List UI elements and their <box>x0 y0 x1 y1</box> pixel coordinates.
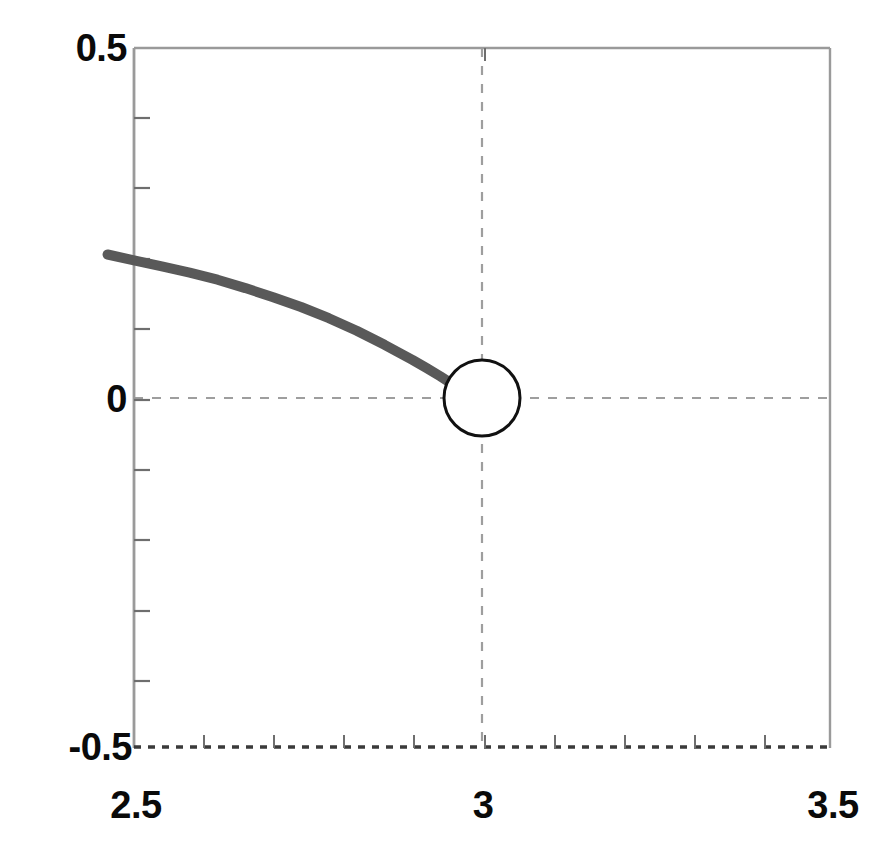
y-axis-label-bottom: -0.5 <box>69 728 132 766</box>
y-axis-label-top: 0.5 <box>76 29 127 67</box>
x-axis-label-left: 2.5 <box>110 786 161 824</box>
x-axis-label-mid: 3 <box>473 786 494 824</box>
y-axis-label-mid: 0 <box>106 380 127 418</box>
x-axis-label-right: 3.5 <box>807 786 858 824</box>
open-circle-marker <box>444 360 520 436</box>
plot-canvas <box>0 0 888 854</box>
chart-figure: 0.5 0 -0.5 2.5 3 3.5 <box>0 0 888 854</box>
